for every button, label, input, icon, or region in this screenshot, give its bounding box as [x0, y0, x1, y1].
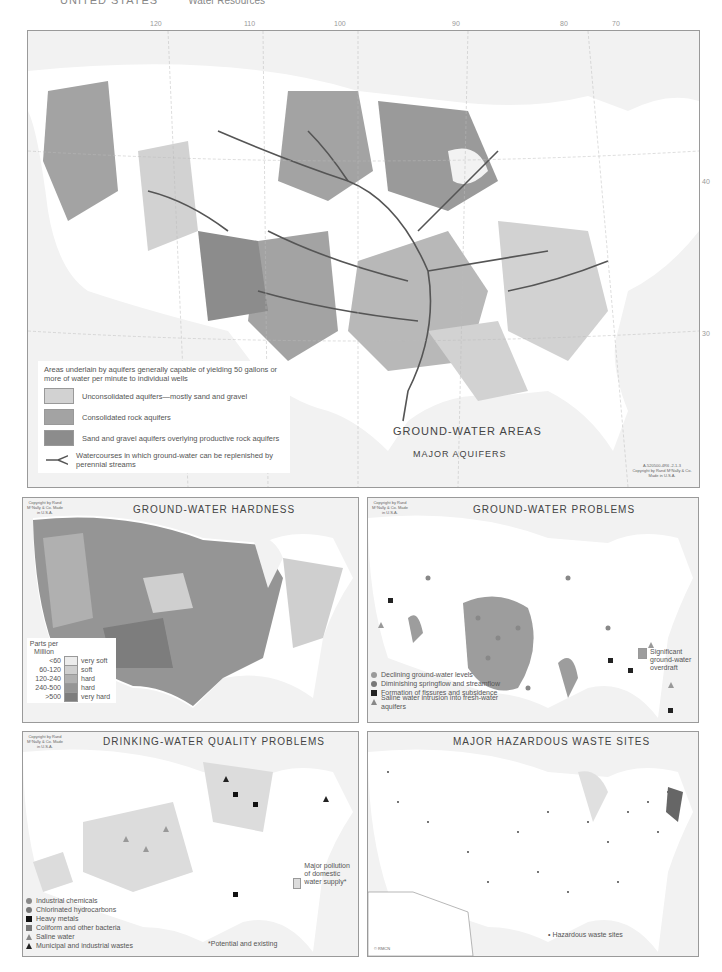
triangle-marker-icon [26, 943, 32, 949]
legend-label: Chlorinated hydrocarbons [36, 905, 116, 914]
drinking-legend: Industrial chemicals Chlorinated hydroca… [26, 896, 146, 950]
map-title: MAJOR HAZARDOUS WASTE SITES [453, 736, 650, 747]
legend-label: Significant ground-water overdraft [650, 648, 696, 672]
legend-label: soft [81, 665, 92, 674]
longitude-tick: 90 [452, 20, 460, 27]
square-marker-icon [26, 916, 32, 922]
legend-label: Saline water [36, 932, 75, 941]
map-title: GROUND-WATER PROBLEMS [473, 504, 635, 515]
drinking-water-quality-map: Copyright by Rand M°Nally & Co. Made in … [22, 731, 359, 957]
credit-line: Made in U.S.A. [628, 473, 696, 478]
circle-marker-icon [371, 681, 377, 687]
hazardous-legend: • Hazardous waste sites [548, 930, 623, 939]
legend-label: Unconsolidated aquifers—mostly sand and … [82, 392, 247, 401]
legend-label: hard [81, 683, 95, 692]
legend-item: Saline water intrusion into fresh-water … [371, 697, 501, 706]
circle-marker-icon [26, 898, 32, 904]
legend-range: >500 [29, 692, 61, 701]
legend-label: Diminishing springflow and streamflow [381, 679, 500, 688]
legend-label: Declining ground-water levels [381, 670, 473, 679]
legend-label: Major pollution of domestic water supply… [304, 862, 355, 886]
hazardous-copyright: © RMCN [370, 946, 394, 951]
legend-label: Sand and gravel aquifers overlying produ… [82, 434, 279, 443]
map-subtitle: MAJOR AQUIFERS [413, 449, 507, 459]
problems-legend: Declining ground-water levels Diminishin… [371, 670, 501, 706]
map-title: DRINKING-WATER QUALITY PROBLEMS [103, 736, 325, 747]
legend-label: very hard [81, 692, 110, 701]
map-credit: A-520500-4R6 -2-1-3 Copyright by Rand M°… [628, 463, 696, 478]
header-title: UNITED STATES [60, 0, 158, 6]
watercourse-icon [44, 453, 68, 467]
ground-water-hardness-map: Copyright by Rand M°Nally & Co. Made in … [22, 497, 359, 723]
legend-label: Coliform and other bacteria [36, 923, 120, 932]
longitude-tick: 110 [244, 20, 255, 27]
legend-swatch [44, 409, 74, 425]
overdraft-legend: Significant ground-water overdraft [638, 648, 696, 672]
legend-item: Chlorinated hydrocarbons [26, 905, 146, 914]
legend-item: Municipal and industrial wastes [26, 941, 146, 950]
legend-range: <60 [29, 656, 61, 665]
legend-label: hard [81, 674, 95, 683]
pollution-legend: Major pollution of domestic water supply… [293, 862, 355, 889]
legend-label: very soft [81, 656, 107, 665]
legend-item: Diminishing springflow and streamflow [371, 679, 501, 688]
triangle-marker-icon [26, 934, 32, 940]
legend-swatch [293, 878, 301, 889]
legend-label: Industrial chemicals [36, 896, 97, 905]
legend-item-watercourses: Watercourses in which ground-water can b… [44, 451, 284, 469]
longitude-tick: 80 [560, 20, 568, 27]
longitude-tick: 100 [334, 20, 346, 27]
triangle-marker-icon [371, 699, 377, 705]
square-marker-icon [26, 925, 32, 931]
legend-item-consolidated: Consolidated rock aquifers [44, 409, 284, 425]
legend-item-unconsolidated: Unconsolidated aquifers—mostly sand and … [44, 388, 284, 404]
legend-intro: Areas underlain by aquifers generally ca… [44, 365, 284, 383]
legend-heading: Parts per Million [29, 640, 59, 656]
legend-item: Heavy metals [26, 914, 146, 923]
legend-swatch [638, 648, 647, 659]
legend-label: Saline water intrusion into fresh-water … [381, 693, 501, 711]
header-subtitle: Water Resources [188, 0, 265, 6]
legend-swatch [64, 692, 78, 702]
ground-water-areas-map: Areas underlain by aquifers generally ca… [27, 30, 700, 488]
hazardous-waste-sites-map: MAJOR HAZARDOUS WASTE SITES • Hazardous … [367, 731, 699, 957]
page-header: UNITED STATES Water Resources [60, 0, 265, 6]
latitude-tick: 30 [702, 330, 710, 337]
legend-label: Consolidated rock aquifers [82, 413, 171, 422]
legend-range: 60-120 [29, 665, 61, 674]
legend-item: >500very hard [29, 692, 114, 701]
circle-marker-icon [371, 672, 377, 678]
legend-label: Municipal and industrial wastes [36, 941, 133, 950]
longitude-tick: 120 [150, 20, 162, 27]
aquifer-legend: Areas underlain by aquifers generally ca… [38, 361, 290, 473]
drinking-copyright: Copyright by Rand M°Nally & Co. Made in … [25, 734, 65, 749]
legend-swatch [44, 388, 74, 404]
legend-item: Declining ground-water levels [371, 670, 501, 679]
legend-item: Saline water [26, 932, 146, 941]
legend-range: 240-500 [29, 683, 61, 692]
map-title: GROUND-WATER HARDNESS [133, 504, 295, 515]
footnote: *Potential and existing [208, 939, 277, 948]
legend-item: Coliform and other bacteria [26, 923, 146, 932]
legend-item: Industrial chemicals [26, 896, 146, 905]
legend-swatch [44, 430, 74, 446]
square-marker-icon [371, 690, 377, 696]
latitude-tick: 40 [702, 178, 710, 185]
hardness-copyright: Copyright by Rand M°Nally & Co. Made in … [25, 500, 65, 515]
legend-label: Heavy metals [36, 914, 78, 923]
problems-copyright: Copyright by Rand M°Nally & Co. Made in … [370, 500, 410, 515]
longitude-tick: 70 [612, 20, 620, 27]
legend-label: Watercourses in which ground-water can b… [76, 451, 284, 469]
legend-item-sand-gravel: Sand and gravel aquifers overlying produ… [44, 430, 284, 446]
circle-marker-icon [26, 907, 32, 913]
ground-water-problems-map: Copyright by Rand M°Nally & Co. Made in … [367, 497, 699, 723]
map-title: GROUND-WATER AREAS [393, 425, 542, 437]
legend-range: 120-240 [29, 674, 61, 683]
hazardous-map-graphic [368, 732, 698, 956]
hardness-legend: Parts per Million <60very soft 60-120sof… [27, 638, 116, 703]
